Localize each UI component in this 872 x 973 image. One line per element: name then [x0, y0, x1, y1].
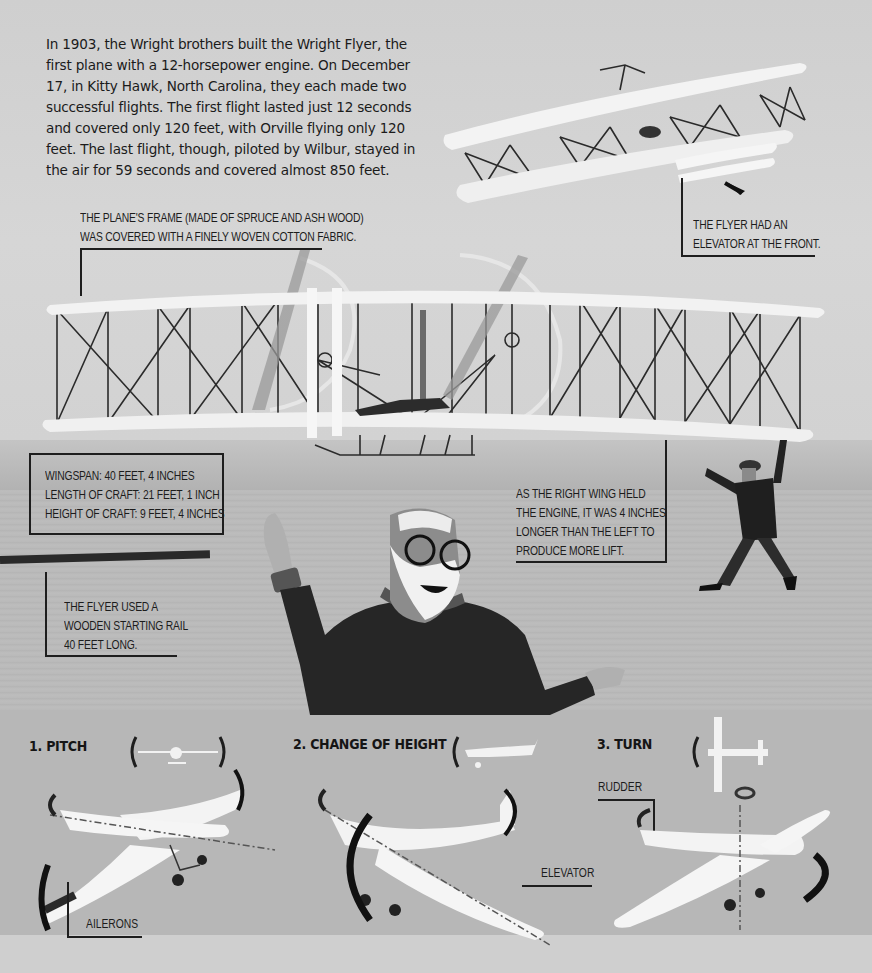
wingspan-spec: WINGSPAN: 40 FEET, 4 INCHES — [45, 467, 224, 486]
turn-top-view-icon — [690, 715, 775, 795]
frame-caption: THE PLANE'S FRAME (MADE OF SPRUCE AND AS… — [80, 209, 363, 247]
rudder-leader-horizontal — [598, 799, 654, 801]
running-man-holding-wing-illustration — [695, 438, 805, 598]
elevator-label-leader-horizontal — [522, 885, 592, 887]
elevator-label: ELEVATOR — [541, 866, 594, 880]
ailerons-leader-horizontal — [67, 936, 142, 938]
intro-paragraph: In 1903, the Wright brothers built the W… — [46, 34, 426, 181]
section-title-change-of-height: 2. CHANGE OF HEIGHT — [293, 736, 446, 752]
turn-plane-illustration — [610, 805, 850, 935]
rail-leader-vertical — [45, 572, 47, 656]
height-spec: HEIGHT OF CRAFT: 9 FEET, 4 INCHES — [45, 505, 224, 524]
wright-flyer-front-view-illustration — [40, 250, 830, 460]
specs-text: WINGSPAN: 40 FEET, 4 INCHES LENGTH OF CR… — [45, 467, 224, 524]
elevator-leader-vertical — [681, 178, 683, 256]
rail-caption: THE FLYER USED A WOODEN STARTING RAIL 40… — [64, 598, 188, 655]
ailerons-leader-vertical — [67, 882, 69, 937]
ailerons-label: AILERONS — [86, 917, 138, 931]
wright-flyer-in-flight-illustration — [440, 55, 810, 215]
bearded-narrator-illustration — [250, 505, 620, 710]
change-of-height-plane-illustration — [310, 785, 570, 945]
elevator-caption: THE FLYER HAD AN ELEVATOR AT THE FRONT. — [693, 216, 821, 254]
section-title-pitch: 1. PITCH — [29, 738, 87, 754]
change-of-height-side-view-icon — [450, 735, 545, 775]
pitch-front-view-icon — [128, 735, 228, 775]
section-title-turn: 3. TURN — [597, 736, 652, 752]
rail-leader-horizontal — [45, 655, 177, 657]
rudder-label: RUDDER — [598, 780, 642, 794]
length-spec: LENGTH OF CRAFT: 21 FEET, 1 INCH — [45, 486, 224, 505]
